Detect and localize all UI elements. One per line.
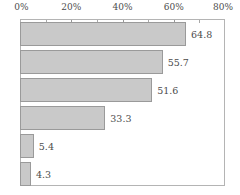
bar-value-label: 55.7 [168,57,189,68]
bar-value-label: 51.6 [157,85,178,96]
x-axis-tick-label: 20% [61,2,81,12]
bar-value-label: 64.8 [191,29,212,40]
bars-container: 64.855.751.633.35.44.3 [20,20,225,185]
bar-value-label: 33.3 [110,113,131,124]
bar-row: 51.6 [20,78,225,102]
bar-row: 55.7 [20,50,225,74]
bar-row: 4.3 [20,162,225,186]
bar [20,134,34,158]
bar [20,22,186,46]
x-axis-tick-label: 0% [14,2,28,12]
bar-row: 33.3 [20,106,225,130]
bar-value-label: 5.4 [39,141,54,152]
x-axis-labels: 0%20%40%60%80% [0,0,240,18]
x-axis-tick-label: 60% [164,2,184,12]
x-axis-tick-label: 80% [213,2,233,12]
bar-row: 64.8 [20,22,225,46]
x-axis-tick-label: 40% [112,2,132,12]
bar [20,50,163,74]
bar-chart: 0%20%40%60%80% 64.855.751.633.35.44.3 [0,0,240,195]
bar-value-label: 4.3 [36,169,51,180]
bar [20,106,105,130]
bar [20,78,152,102]
bar-row: 5.4 [20,134,225,158]
bar [20,162,31,186]
